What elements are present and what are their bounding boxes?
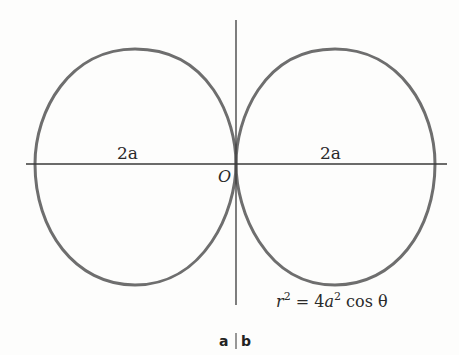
equation-label: r2 = 4a2 cos θ: [276, 290, 388, 311]
panel-label-b: b: [241, 333, 251, 349]
origin-label: O: [218, 167, 231, 186]
lemniscate-diagram: 2a 2a O r2 = 4a2 cos θ a b: [0, 0, 459, 355]
right-distance-label: 2a: [320, 143, 341, 163]
left-distance-label: 2a: [117, 143, 138, 163]
right-loop-curve: [236, 49, 435, 285]
panel-label-a: a: [219, 333, 228, 349]
left-loop-curve: [35, 49, 236, 285]
